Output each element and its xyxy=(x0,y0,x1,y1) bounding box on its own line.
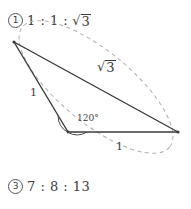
option-marker-3: 3 xyxy=(8,179,23,194)
triangle-edge-left xyxy=(14,42,68,132)
vertex-top-left-dot xyxy=(12,40,15,43)
left-side-label: 1 xyxy=(30,86,37,99)
option-three-ratio-text: 7 : 8 : 13 xyxy=(27,179,90,194)
triangle-diagram xyxy=(0,0,191,209)
hypotenuse-radicand: 3 xyxy=(105,60,115,74)
option-three-row: 3 7 : 8 : 13 xyxy=(8,179,90,194)
vertex-right-dot xyxy=(176,130,179,133)
geometry-figure-panel: 1 1 : 1 : √ 3 √ 3 xyxy=(0,0,191,209)
angle-label-120: 120° xyxy=(77,113,99,123)
bottom-side-label: 1 xyxy=(116,140,123,153)
hypotenuse-radical-sign-icon: √ xyxy=(97,60,105,73)
hypotenuse-label: √ 3 xyxy=(97,59,116,74)
